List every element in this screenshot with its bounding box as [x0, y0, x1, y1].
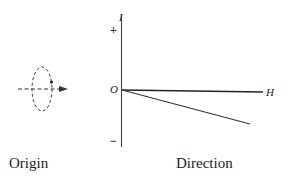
positive-sign: + [110, 24, 117, 36]
diagram-canvas [0, 0, 289, 180]
arrow-head-icon [59, 86, 68, 92]
direction-caption: Direction [176, 156, 233, 171]
horizontal-axis-H [122, 90, 263, 92]
direction-figure [122, 15, 264, 147]
current-dot [50, 80, 53, 83]
axis-label-I: I [119, 12, 123, 23]
axis-label-H: H [266, 87, 274, 98]
negative-sign: − [110, 135, 117, 147]
origin-caption: Origin [9, 156, 48, 171]
origin-label-O: O [110, 84, 118, 95]
origin-figure [18, 67, 68, 111]
descending-line [122, 90, 250, 124]
